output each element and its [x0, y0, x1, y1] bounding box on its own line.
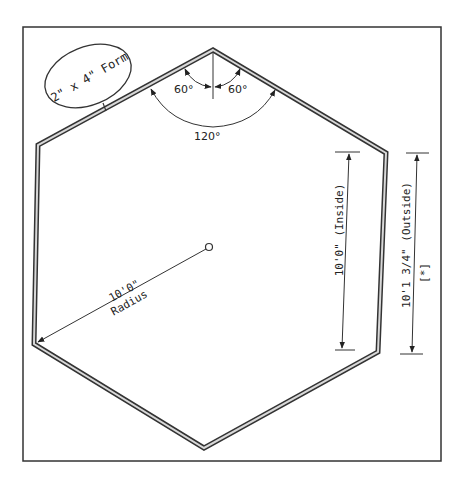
outside-dimension: 10'1 3/4" (Outside) [*]	[400, 153, 431, 354]
outside-dimension-label: 10'1 3/4" (Outside)	[400, 182, 413, 308]
inside-dimension: 10'0" (Inside)	[333, 152, 360, 350]
form-callout: 2" x 4" Form	[35, 32, 140, 119]
center-point	[206, 244, 213, 251]
angle-interior-label: 120°	[194, 130, 221, 143]
hexagon-form-diagram: 2" x 4" Form 60° 60° 120° 10'0" Radius 1…	[0, 0, 463, 486]
inside-dimension-label: 10'0" (Inside)	[333, 184, 346, 277]
outside-dimension-note: [*]	[418, 263, 431, 283]
angle-left-label: 60°	[174, 83, 194, 96]
angle-right-label: 60°	[228, 83, 248, 96]
